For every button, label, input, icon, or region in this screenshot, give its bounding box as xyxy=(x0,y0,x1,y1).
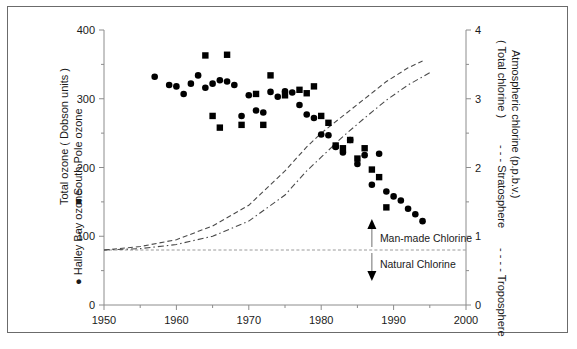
south-pole-point xyxy=(369,166,375,172)
right-axis-tick-label: 0 xyxy=(475,299,481,311)
right-axis-legend-strat: - - - Stratosphere xyxy=(496,145,508,228)
south-pole-point xyxy=(267,72,273,78)
south-pole-point xyxy=(376,174,382,180)
halley-bay-point xyxy=(260,109,267,116)
left-axis-legend-circle: ● Halley Bay ozone xyxy=(72,190,84,285)
halley-bay-point xyxy=(166,82,173,89)
halley-bay-point xyxy=(412,211,419,218)
south-pole-point xyxy=(361,145,367,151)
south-pole-point xyxy=(311,83,317,89)
chart-canvas: 0100200300400012341950196019701980199020… xyxy=(0,0,577,349)
halley-bay-point xyxy=(217,77,224,84)
halley-bay-point xyxy=(398,197,405,204)
manmade-arrow-head-icon xyxy=(367,219,376,229)
halley-bay-point xyxy=(419,218,426,225)
south-pole-point xyxy=(332,142,338,148)
x-axis-tick-label: 1970 xyxy=(237,314,261,326)
natural-arrow-head-icon xyxy=(367,271,376,281)
halley-bay-point xyxy=(151,73,158,80)
halley-bay-point xyxy=(224,78,231,85)
stratosphere-curve xyxy=(104,73,430,250)
halley-bay-point xyxy=(325,132,332,139)
halley-bay-point xyxy=(195,72,202,79)
halley-bay-point xyxy=(202,84,209,91)
south-pole-point xyxy=(202,52,208,58)
halley-bay-point xyxy=(180,91,187,98)
halley-bay-point xyxy=(209,80,216,87)
x-axis-tick-label: 2000 xyxy=(454,314,478,326)
halley-bay-point xyxy=(289,89,296,96)
x-axis-tick-label: 1960 xyxy=(164,314,188,326)
right-axis-tick-label: 4 xyxy=(475,24,481,36)
south-pole-point xyxy=(383,204,389,210)
halley-bay-point xyxy=(311,115,318,122)
halley-bay-point xyxy=(173,83,180,90)
left-axis-title: Total ozone ( Dobson units ) xyxy=(58,68,70,205)
halley-bay-point xyxy=(188,80,195,87)
x-axis-tick-label: 1990 xyxy=(381,314,405,326)
south-pole-point xyxy=(304,90,310,96)
right-axis-tick-label: 1 xyxy=(475,230,481,242)
right-axis-tick-label: 3 xyxy=(475,93,481,105)
x-axis-tick-label: 1950 xyxy=(92,314,116,326)
left-axis-tick-label: 300 xyxy=(77,93,95,105)
left-axis-tick-label: 400 xyxy=(77,24,95,36)
south-pole-point xyxy=(217,124,223,130)
right-axis-title: Atmospheric chlorine (p.p.b.v.) xyxy=(510,50,522,198)
halley-bay-point xyxy=(390,193,397,200)
halley-bay-point xyxy=(405,205,412,212)
south-pole-point xyxy=(238,122,244,128)
south-pole-point xyxy=(282,92,288,98)
south-pole-point xyxy=(347,137,353,143)
south-pole-point xyxy=(354,155,360,161)
right-axis-legend-total: ( Total chlorine ) xyxy=(496,40,508,118)
halley-bay-point xyxy=(318,131,325,138)
south-pole-point xyxy=(253,91,259,97)
halley-bay-point xyxy=(238,113,245,120)
ozone-chlorine-figure: 0100200300400012341950196019701980199020… xyxy=(0,0,577,349)
south-pole-point xyxy=(296,87,302,93)
halley-bay-point xyxy=(267,89,274,96)
halley-bay-point xyxy=(246,92,253,99)
halley-bay-point xyxy=(361,152,368,159)
natural-chlorine-label: Natural Chlorine xyxy=(380,258,456,270)
halley-bay-point xyxy=(383,188,390,195)
halley-bay-point xyxy=(303,111,310,118)
manmade-chlorine-label: Man-made Chlorine xyxy=(380,232,472,244)
left-axis-tick-label: 0 xyxy=(89,299,95,311)
halley-bay-point xyxy=(376,150,383,157)
halley-bay-point xyxy=(274,93,281,100)
south-pole-point xyxy=(224,52,230,58)
south-pole-point xyxy=(209,113,215,119)
right-axis-tick-label: 2 xyxy=(475,162,481,174)
south-pole-point xyxy=(325,120,331,126)
south-pole-point xyxy=(318,113,324,119)
halley-bay-point xyxy=(231,82,238,89)
troposphere-curve xyxy=(104,61,423,250)
south-pole-point xyxy=(340,145,346,151)
right-axis-legend-trop: - - - - Troposphere xyxy=(496,248,508,337)
halley-bay-point xyxy=(369,181,376,188)
halley-bay-point xyxy=(253,107,260,114)
halley-bay-point xyxy=(296,102,303,109)
south-pole-point xyxy=(260,122,266,128)
x-axis-tick-label: 1980 xyxy=(309,314,333,326)
